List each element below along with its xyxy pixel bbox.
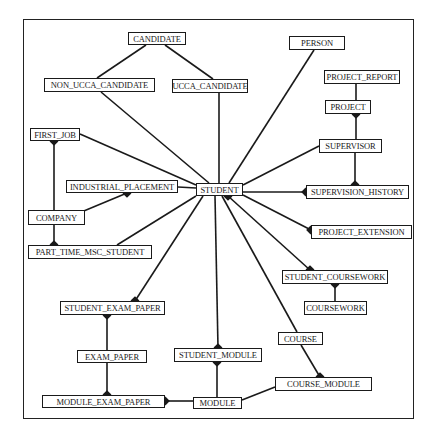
crows-foot-icon <box>213 362 221 366</box>
entity-part-time-msc-student[interactable]: PART_TIME_MSC_STUDENT <box>28 245 152 259</box>
entity-candidate[interactable]: CANDIDATE <box>128 32 186 45</box>
relationship-non_ucca_candidate-student <box>101 92 209 183</box>
entity-course-module[interactable]: COURSE_MODULE <box>275 377 372 391</box>
entity-student-coursework[interactable]: STUDENT_COURSEWORK <box>282 270 388 284</box>
relationship-student-student_coursework <box>228 196 310 270</box>
entity-supervision-history[interactable]: SUPERVISION_HISTORY <box>306 185 409 199</box>
entity-non-ucca-candidate[interactable]: NON_UCCA_CANDIDATE <box>44 78 155 92</box>
entity-project-report[interactable]: PROJECT_REPORT <box>324 70 400 84</box>
crows-foot-icon <box>123 193 131 197</box>
relationship-candidate-ucca_candidate <box>165 45 213 79</box>
crows-foot-icon <box>103 315 111 319</box>
entity-module-exam-paper[interactable]: MODULE_EXAM_PAPER <box>42 395 165 408</box>
relationship-module-course_module <box>242 387 275 400</box>
entity-person[interactable]: PERSON <box>289 36 345 50</box>
entity-ucca-candidate[interactable]: UCCA_CANDIDATE <box>172 79 248 93</box>
relationship-candidate-non_ucca_candidate <box>97 45 146 78</box>
crows-foot-icon <box>50 141 58 145</box>
entity-industrial-placement[interactable]: INDUSTRIAL_PLACEMENT <box>66 180 178 193</box>
entity-supervisor[interactable]: SUPERVISOR <box>319 139 382 153</box>
entity-company[interactable]: COMPANY <box>28 210 85 225</box>
entity-student[interactable]: STUDENT <box>196 183 243 196</box>
relationship-industrial_placement-student <box>178 187 196 188</box>
relationship-part_time_msc_student-student <box>117 196 196 245</box>
entity-project-extension[interactable]: PROJECT_EXTENSION <box>311 225 412 239</box>
entity-project[interactable]: PROJECT <box>325 100 371 114</box>
entity-module[interactable]: MODULE <box>193 397 242 409</box>
crows-foot-icon <box>352 114 360 118</box>
relationship-first_job-student <box>80 134 196 185</box>
entity-first-job[interactable]: FIRST_JOB <box>30 128 80 141</box>
relationship-supervisor-student <box>243 146 319 185</box>
entity-student-module[interactable]: STUDENT_MODULE <box>174 348 262 362</box>
entity-exam-paper[interactable]: EXAM_PAPER <box>77 350 147 363</box>
crows-foot-icon <box>165 397 169 405</box>
entity-coursework[interactable]: COURSEWORK <box>304 301 367 315</box>
entity-student-exam-paper[interactable]: STUDENT_EXAM_PAPER <box>60 301 165 315</box>
er-diagram: CANDIDATENON_UCCA_CANDIDATEUCCA_CANDIDAT… <box>0 0 439 437</box>
relationship-person-student <box>229 50 314 183</box>
relationship-student-project_extension <box>243 195 311 230</box>
relationship-company-industrial_placement <box>79 193 127 213</box>
crows-foot-icon <box>331 284 339 288</box>
entity-course[interactable]: COURSE <box>278 332 323 345</box>
relationship-student-student_module <box>215 196 218 348</box>
relationship-course-course_module <box>301 345 320 377</box>
